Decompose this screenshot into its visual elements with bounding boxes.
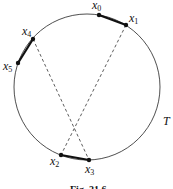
label-x5: x5	[2, 59, 12, 74]
dashed-chord-x4-x3	[33, 39, 89, 160]
dashed-chord-x1-x2	[61, 25, 126, 155]
solid-segment-x4-x5	[18, 39, 33, 63]
circle-T	[14, 14, 160, 160]
label-x4: x4	[21, 24, 31, 39]
point-x1	[124, 23, 128, 27]
label-x3: x3	[84, 162, 94, 177]
curve-label-T: T	[163, 114, 171, 128]
point-x2	[59, 153, 63, 157]
figure-diagram: x0 x1 x2 x3 x4 x5 T Fig. 21.6	[0, 0, 173, 189]
point-x5	[16, 61, 20, 65]
point-x0	[97, 13, 101, 17]
point-x4	[31, 37, 35, 41]
label-x0: x0	[91, 0, 101, 13]
label-x1: x1	[128, 11, 138, 26]
solid-segment-x0-x1	[99, 15, 126, 25]
label-x2: x2	[49, 154, 59, 169]
figure-caption: Fig. 21.6	[70, 184, 106, 189]
